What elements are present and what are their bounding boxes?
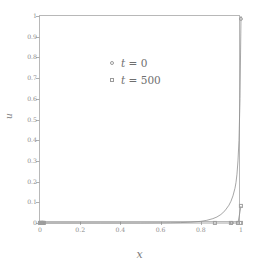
data-point-t500 [213, 221, 217, 225]
x-tick-label: 0.2 [75, 227, 85, 233]
data-point-t0 [239, 17, 243, 21]
y-tick-label: 0.4 [27, 137, 37, 143]
legend-eq-t500: = 500 [129, 74, 161, 86]
y-tick-label: 1 [33, 13, 37, 19]
square-marker-icon [106, 78, 118, 82]
legend-label-t0: t = 0 [121, 57, 147, 69]
y-axis-label: u [4, 113, 14, 119]
legend-entry-t0: t = 0 [106, 54, 186, 71]
plot-data-area [40, 16, 239, 221]
y-tick-label: 0.7 [27, 75, 37, 81]
x-tick-label: 1 [239, 227, 243, 233]
y-tick-label: 0.8 [27, 54, 37, 60]
y-tick-label: 0.3 [27, 158, 37, 164]
x-axis-label: x [39, 248, 240, 261]
legend-label-t500: t = 500 [121, 74, 161, 86]
x-tick-label: 0 [38, 227, 42, 233]
legend-entry-t500: t = 500 [106, 71, 186, 88]
y-tick-label: 0.6 [27, 96, 37, 102]
series-line [40, 16, 241, 223]
legend: t = 0 t = 500 [106, 54, 186, 88]
legend-var-t500: t [121, 74, 125, 86]
y-tick-label: 0.5 [27, 116, 37, 122]
y-tick-label: 0.9 [27, 34, 37, 40]
y-tick-label: 0.2 [27, 178, 37, 184]
y-tick-label: 0 [33, 220, 37, 226]
y-tick-label: 0.1 [27, 199, 37, 205]
x-tick-label: 0.4 [115, 227, 125, 233]
figure-root: u x 00.10.20.30.40.50.60.70.80.91 00.20.… [0, 0, 270, 273]
circle-marker-icon [106, 61, 118, 65]
series-line [40, 206, 241, 223]
data-point-t500 [42, 221, 46, 225]
plot-frame: 00.10.20.30.40.50.60.70.80.91 00.20.40.6… [39, 15, 240, 222]
series-curves [40, 16, 241, 223]
x-tick-label: 0.8 [196, 227, 206, 233]
data-point-t500 [239, 221, 243, 225]
legend-var-t0: t [121, 57, 125, 69]
x-tick-label: 0.6 [156, 227, 166, 233]
data-point-t500 [229, 221, 233, 225]
legend-eq-t0: = 0 [129, 57, 148, 69]
data-point-t500 [239, 204, 243, 208]
